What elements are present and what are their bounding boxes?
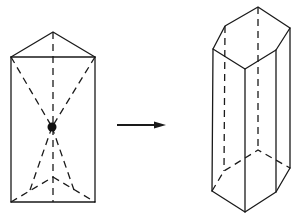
diagonal-bl	[30, 127, 52, 190]
diagonal-br	[52, 127, 74, 190]
diagonal-tr	[52, 57, 95, 127]
triangular-prism	[11, 32, 95, 202]
hex-bottom-front-edges	[212, 168, 290, 212]
diagram-canvas	[0, 0, 298, 220]
transform-arrow-icon	[117, 122, 166, 129]
hex-edge-left	[212, 49, 213, 191]
hex-hidden-edge-back-left	[224, 26, 225, 171]
center-point-icon	[48, 123, 57, 132]
hexagonal-prism	[212, 7, 290, 212]
diagonal-tl	[11, 57, 52, 127]
prism-hidden-bottom-left	[11, 177, 53, 202]
